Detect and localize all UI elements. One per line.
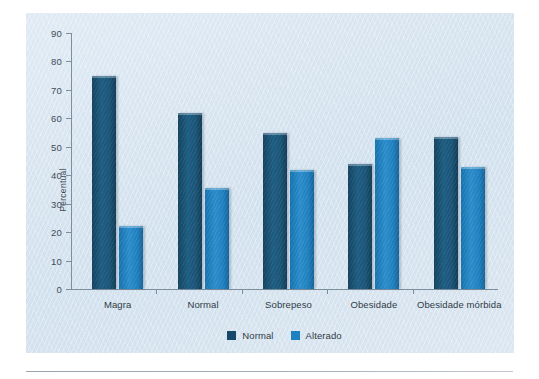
bar-group-magra	[92, 33, 143, 289]
bar-top-highlight	[434, 137, 458, 139]
plot-area: 0102030405060708090 MagraNormalSobrepeso…	[71, 33, 498, 290]
bar-top-highlight	[375, 138, 399, 140]
chart-figure: Percentual 0102030405060708090 MagraNorm…	[0, 0, 539, 379]
bar-alterado-obesidade-mórbida[interactable]	[461, 167, 485, 289]
y-tick-label: 0	[57, 284, 62, 295]
y-tick-mark	[66, 33, 71, 34]
bar-top-highlight	[119, 226, 143, 228]
y-tick-mark	[66, 61, 71, 62]
bar-top-highlight	[348, 164, 372, 166]
y-tick-mark	[66, 204, 71, 205]
y-tick-mark	[66, 118, 71, 119]
y-tick-label: 40	[51, 170, 62, 181]
y-tick-label: 30	[51, 198, 62, 209]
bar-top-highlight	[290, 170, 314, 172]
bar-group-obesidade	[348, 33, 399, 289]
bar-group-sobrepeso	[263, 33, 314, 289]
bar-top-highlight	[263, 133, 287, 135]
chart-legend: NormalAlterado	[71, 330, 498, 341]
y-tick-label: 60	[51, 113, 62, 124]
legend-label: Normal	[242, 330, 273, 341]
y-tick-label: 20	[51, 227, 62, 238]
bar-alterado-normal[interactable]	[205, 188, 229, 289]
x-tick-mark	[242, 289, 243, 294]
bar-normal-obesidade[interactable]	[348, 164, 372, 289]
y-tick-label: 90	[51, 28, 62, 39]
x-tick-mark	[327, 289, 328, 294]
y-tick-mark	[66, 147, 71, 148]
legend-item-alterado[interactable]: Alterado	[291, 330, 342, 341]
bar-normal-sobrepeso[interactable]	[263, 133, 287, 289]
y-tick-mark	[66, 232, 71, 233]
bar-normal-magra[interactable]	[92, 76, 116, 289]
bar-group-normal	[178, 33, 229, 289]
y-tick-mark	[66, 90, 71, 91]
y-axis-line	[71, 33, 72, 290]
y-tick-label: 50	[51, 141, 62, 152]
x-axis-line	[71, 289, 498, 290]
bar-top-highlight	[205, 188, 229, 190]
bar-alterado-magra[interactable]	[119, 226, 143, 289]
category-label-obesidade: Obesidade	[350, 299, 397, 310]
category-label-normal: Normal	[187, 299, 218, 310]
y-tick-mark	[66, 289, 71, 290]
category-label-sobrepeso: Sobrepeso	[265, 299, 312, 310]
y-tick-label: 80	[51, 56, 62, 67]
y-tick-label: 70	[51, 84, 62, 95]
bar-alterado-obesidade[interactable]	[375, 138, 399, 289]
y-tick-mark	[66, 175, 71, 176]
y-tick-label: 10	[51, 255, 62, 266]
bar-group-obesidade-mórbida	[434, 33, 485, 289]
legend-item-normal[interactable]: Normal	[227, 330, 273, 341]
bar-top-highlight	[178, 113, 202, 115]
bar-top-highlight	[92, 76, 116, 78]
legend-swatch-alterado-icon	[291, 331, 300, 340]
bar-normal-obesidade-mórbida[interactable]	[434, 137, 458, 289]
bar-alterado-sobrepeso[interactable]	[290, 170, 314, 289]
bottom-divider-rule	[26, 371, 513, 372]
category-label-magra: Magra	[104, 299, 131, 310]
legend-label: Alterado	[306, 330, 342, 341]
x-tick-mark	[413, 289, 414, 294]
category-label-obesidade-mórbida: Obesidade mórbida	[417, 299, 502, 310]
bar-top-highlight	[461, 167, 485, 169]
legend-swatch-normal-icon	[227, 331, 236, 340]
bar-normal-normal[interactable]	[178, 113, 202, 289]
x-tick-mark	[156, 289, 157, 294]
y-tick-mark	[66, 261, 71, 262]
